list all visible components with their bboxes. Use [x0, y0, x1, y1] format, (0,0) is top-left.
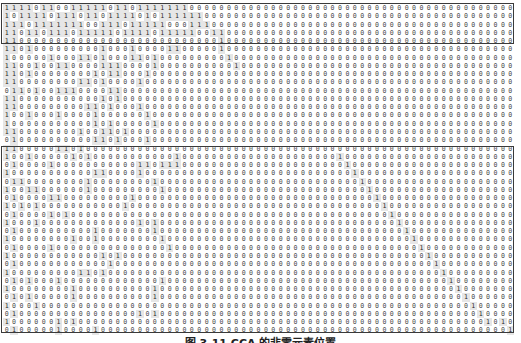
matrix-cell: 0	[403, 4, 410, 12]
matrix-cell: 0	[455, 95, 462, 103]
matrix-cell: 0	[262, 103, 269, 111]
matrix-cell: 1	[3, 145, 10, 153]
matrix-cell: 0	[18, 260, 25, 268]
matrix-cell: 0	[455, 194, 462, 202]
matrix-cell: 1	[84, 103, 91, 111]
matrix-cell: 0	[25, 145, 32, 153]
matrix-cell: 0	[455, 103, 462, 111]
matrix-cell: 0	[499, 4, 506, 12]
matrix-cell: 0	[136, 252, 143, 260]
matrix-cell: 0	[440, 227, 447, 235]
matrix-cell: 0	[373, 169, 380, 177]
matrix-cell: 0	[188, 269, 195, 277]
matrix-cell: 1	[114, 21, 121, 29]
matrix-cell: 0	[173, 70, 180, 78]
matrix-cell: 0	[403, 310, 410, 318]
matrix-cell: 0	[240, 277, 247, 285]
matrix-cell: 0	[196, 310, 203, 318]
matrix-cell: 0	[329, 318, 336, 326]
matrix-cell: 0	[77, 45, 84, 53]
matrix-cell: 1	[381, 202, 388, 210]
matrix-cell: 0	[396, 4, 403, 12]
matrix-cell: 0	[233, 54, 240, 62]
matrix-cell: 0	[136, 260, 143, 268]
matrix-cell: 0	[396, 136, 403, 144]
matrix-cell: 0	[18, 54, 25, 62]
matrix-row: 1000100000000000000000000000000000000000…	[3, 302, 515, 310]
matrix-cell: 0	[477, 202, 484, 210]
matrix-cell: 0	[462, 145, 469, 153]
matrix-cell: 0	[388, 310, 395, 318]
matrix-cell: 0	[373, 211, 380, 219]
matrix-cell: 0	[433, 4, 440, 12]
matrix-cell: 0	[159, 87, 166, 95]
matrix-cell: 1	[418, 244, 425, 252]
matrix-cell: 1	[188, 29, 195, 37]
matrix-cell: 0	[359, 194, 366, 202]
matrix-cell: 0	[359, 54, 366, 62]
matrix-cell: 0	[136, 145, 143, 153]
matrix-cell: 0	[299, 78, 306, 86]
matrix-cell: 0	[484, 128, 491, 136]
matrix-cell: 0	[507, 293, 514, 301]
matrix-cell: 0	[240, 128, 247, 136]
matrix-cell: 0	[270, 178, 277, 186]
matrix-cell: 0	[25, 37, 32, 45]
matrix-cell: 0	[84, 285, 91, 293]
matrix-cell: 0	[499, 202, 506, 210]
matrix-cell: 0	[151, 302, 158, 310]
matrix-cell: 0	[181, 194, 188, 202]
matrix-cell: 0	[47, 219, 54, 227]
matrix-cell: 0	[462, 252, 469, 260]
matrix-cell: 0	[33, 78, 40, 86]
matrix-cell: 0	[344, 202, 351, 210]
matrix-cell: 1	[33, 21, 40, 29]
matrix-cell: 0	[225, 202, 232, 210]
matrix-cell: 1	[3, 219, 10, 227]
matrix-cell: 0	[144, 293, 151, 301]
matrix-cell: 0	[388, 318, 395, 326]
matrix-cell: 0	[144, 178, 151, 186]
matrix-cell: 1	[166, 161, 173, 169]
matrix-cell: 0	[492, 310, 499, 318]
matrix-cell: 0	[159, 95, 166, 103]
matrix-cell: 1	[99, 169, 106, 177]
matrix-cell: 0	[262, 111, 269, 119]
matrix-cell: 0	[470, 128, 477, 136]
matrix-cell: 0	[247, 70, 254, 78]
matrix-cell: 0	[307, 169, 314, 177]
matrix-cell: 0	[181, 95, 188, 103]
matrix-cell: 1	[3, 153, 10, 161]
matrix-cell: 0	[329, 21, 336, 29]
matrix-cell: 0	[381, 103, 388, 111]
matrix-cell: 0	[403, 285, 410, 293]
matrix-cell: 0	[484, 54, 491, 62]
matrix-cell: 0	[55, 219, 62, 227]
matrix-cell: 0	[366, 87, 373, 95]
matrix-cell: 0	[151, 235, 158, 243]
matrix-cell: 0	[477, 103, 484, 111]
matrix-cell: 0	[425, 153, 432, 161]
matrix-cell: 0	[3, 178, 10, 186]
matrix-cell: 0	[247, 120, 254, 128]
matrix-cell: 0	[277, 186, 284, 194]
matrix-cell: 0	[151, 37, 158, 45]
matrix-cell: 0	[33, 70, 40, 78]
matrix-cell: 0	[92, 95, 99, 103]
matrix-cell: 0	[233, 21, 240, 29]
matrix-cell: 1	[55, 194, 62, 202]
matrix-cell: 0	[240, 54, 247, 62]
matrix-cell: 0	[136, 227, 143, 235]
matrix-cell: 1	[55, 87, 62, 95]
matrix-cell: 0	[166, 285, 173, 293]
matrix-cell: 1	[70, 293, 77, 301]
matrix-cell: 0	[477, 87, 484, 95]
matrix-cell: 0	[262, 269, 269, 277]
matrix-cell: 0	[284, 95, 291, 103]
matrix-cell: 0	[99, 260, 106, 268]
matrix-cell: 0	[33, 318, 40, 326]
matrix-cell: 1	[151, 310, 158, 318]
matrix-cell: 0	[344, 70, 351, 78]
matrix-cell: 0	[396, 211, 403, 219]
matrix-cell: 0	[425, 21, 432, 29]
